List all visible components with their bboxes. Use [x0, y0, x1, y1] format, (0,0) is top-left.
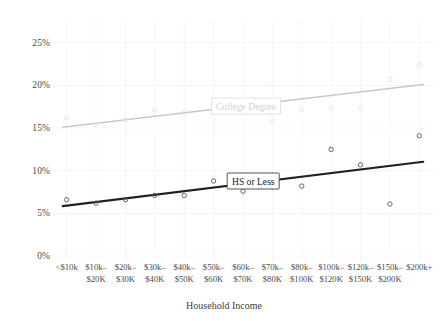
x-axis-tick-label: $70k–$80K: [262, 262, 283, 285]
x-axis-tick-label: $40k–$50K: [173, 262, 194, 285]
x-axis-tick-label: $60k–$70K: [232, 262, 253, 285]
x-axis-tick-label: $20k–$30K: [115, 262, 136, 285]
x-axis-tick-label: <$10k: [56, 262, 78, 274]
y-axis-tick-label: 5%: [10, 208, 50, 218]
x-tick-line-1: $80k–: [291, 262, 312, 272]
x-tick-line-2: $40K: [144, 274, 165, 286]
x-axis-title: Household Income: [0, 300, 448, 311]
x-axis-tick-labels: <$10k$10k–$20K$20k–$30K$30k–$40K$40k–$50…: [0, 262, 448, 296]
y-axis-tick-label: 10%: [10, 166, 50, 176]
x-axis-tick-label: $200k+: [406, 262, 432, 274]
y-axis-tick-label: 25%: [10, 38, 50, 48]
x-tick-line-2: $70K: [232, 274, 253, 286]
x-axis-tick-label: $100k–$120K: [318, 262, 344, 285]
x-axis-tick-label: $50k–$60K: [203, 262, 224, 285]
x-axis-tick-label: $120k–$150K: [348, 262, 374, 285]
x-tick-line-2: $100K: [290, 274, 313, 286]
x-tick-line-1: $40k–: [173, 262, 194, 272]
x-tick-line-2: $50K: [173, 274, 194, 286]
x-tick-line-2: $120K: [318, 274, 344, 286]
x-tick-line-1: <$10k: [56, 262, 78, 272]
chart-container: 0%5%10%15%20%25% <$10k$10k–$20K$20k–$30K…: [0, 0, 448, 321]
x-tick-line-1: $100k–: [318, 262, 344, 272]
x-tick-line-2: $30K: [115, 274, 136, 286]
y-axis-tick-label: 0%: [10, 251, 50, 261]
x-tick-line-1: $70k–: [262, 262, 283, 272]
x-tick-line-1: $60k–: [232, 262, 253, 272]
x-tick-line-1: $30k–: [144, 262, 165, 272]
x-axis-tick-label: $30k–$40K: [144, 262, 165, 285]
y-axis-tick-label: 20%: [10, 80, 50, 90]
x-tick-line-2: $80K: [262, 274, 283, 286]
x-tick-line-1: $50k–: [203, 262, 224, 272]
x-tick-line-2: $150K: [348, 274, 374, 286]
series-label-hs: HS or Less: [227, 172, 280, 189]
x-tick-line-2: $60K: [203, 274, 224, 286]
x-tick-line-1: $200k+: [406, 262, 432, 272]
x-axis-tick-label: $10k–$20K: [85, 262, 106, 285]
x-axis-tick-label: $150k–$200K: [377, 262, 403, 285]
x-tick-line-2: $200K: [377, 274, 403, 286]
y-axis-tick-label: 15%: [10, 123, 50, 133]
series-label-college: College Degree: [211, 97, 281, 114]
x-tick-line-1: $120k–: [348, 262, 374, 272]
x-tick-line-1: $20k–: [115, 262, 136, 272]
x-axis-tick-label: $80k–$100K: [290, 262, 313, 285]
x-tick-line-1: $10k–: [85, 262, 106, 272]
x-tick-line-2: $20K: [85, 274, 106, 286]
x-tick-line-1: $150k–: [377, 262, 403, 272]
gridlines: [52, 20, 434, 262]
